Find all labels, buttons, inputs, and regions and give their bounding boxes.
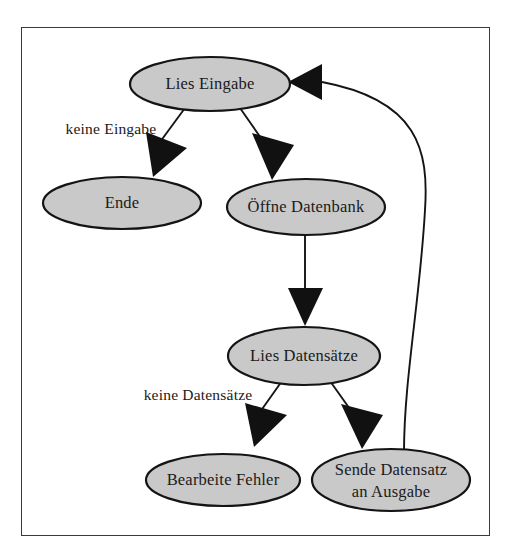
edge-oeffne-datenbank-to-lies-datensaetze — [288, 235, 323, 326]
arrow-head — [245, 403, 287, 447]
arrow-head — [146, 132, 187, 177]
node-label: Bearbeite Fehler — [167, 470, 280, 489]
edge-curve — [322, 82, 426, 452]
edge-lies-eingabe-to-oeffne-datenbank — [240, 108, 294, 180]
edge-sende-datensatz-to-lies-eingabe — [288, 64, 426, 452]
arrow-head — [288, 64, 322, 100]
flowchart-canvas: keine Eingabe keine Datensätze Lies Eing… — [0, 0, 510, 547]
node-shape[interactable] — [312, 449, 470, 511]
node-label-line1: Sende Datensatz — [335, 460, 448, 479]
node-lies-datensaetze[interactable]: Lies Datensätze — [228, 327, 380, 385]
node-label: Lies Eingabe — [166, 74, 255, 93]
arrow-head — [252, 133, 294, 180]
node-lies-eingabe[interactable]: Lies Eingabe — [130, 57, 290, 111]
arrow-head — [341, 404, 383, 449]
edge-label-keine-datensaetze: keine Datensätze — [144, 386, 253, 403]
edge-line — [260, 381, 282, 412]
edge-lies-datensaetze-to-sende-datensatz — [330, 381, 383, 449]
node-label: Ende — [105, 193, 140, 212]
node-oeffne-datenbank[interactable]: Öffne Datenbank — [227, 179, 385, 235]
node-label: Öffne Datenbank — [248, 197, 365, 216]
node-label: Lies Datensätze — [250, 346, 358, 365]
node-bearbeite-fehler[interactable]: Bearbeite Fehler — [146, 454, 300, 506]
edge-line — [160, 108, 185, 142]
edge-lies-eingabe-to-ende — [146, 108, 187, 177]
arrow-head — [288, 288, 323, 326]
node-label-line2: an Ausgabe — [352, 482, 431, 501]
node-sende-datensatz[interactable]: Sende Datensatz an Ausgabe — [312, 449, 470, 511]
node-ende[interactable]: Ende — [43, 177, 201, 229]
edge-label-keine-eingabe: keine Eingabe — [66, 120, 157, 137]
diagram-page: keine Eingabe keine Datensätze Lies Eing… — [0, 0, 510, 547]
